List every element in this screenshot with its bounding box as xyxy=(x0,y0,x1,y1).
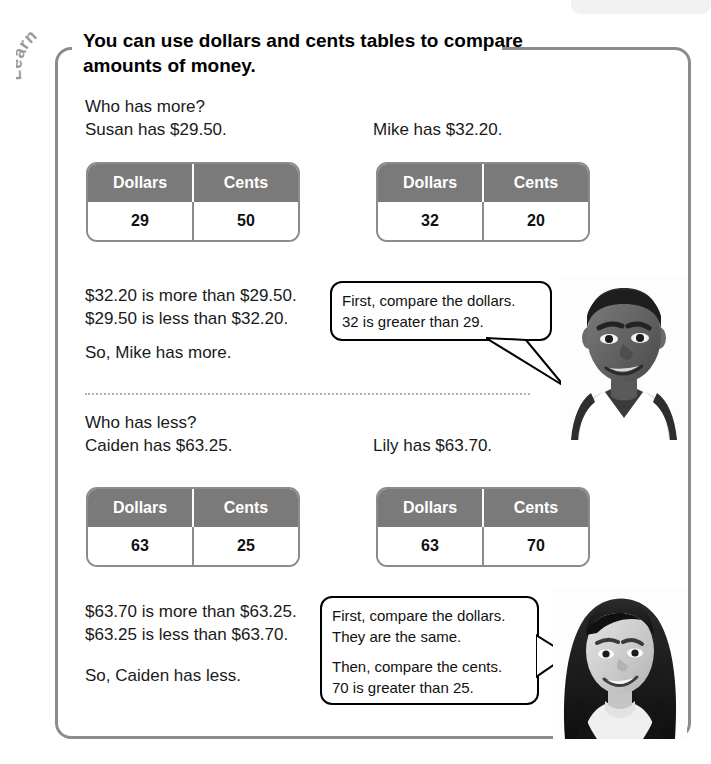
example2-comparison-line2: $63.25 is less than $63.70. xyxy=(85,623,345,646)
section-divider xyxy=(85,393,530,396)
example1-conclusion: So, Mike has more. xyxy=(85,341,345,364)
example2-table-caiden: Dollars Cents 63 25 xyxy=(86,487,300,567)
example2-conclusion: So, Caiden has less. xyxy=(85,664,345,687)
bubble-para2-line1: Then, compare the cents. xyxy=(332,658,502,675)
example1-right-statement: Mike has $32.20. xyxy=(373,118,633,141)
value-cents: 25 xyxy=(194,527,298,565)
example2-right-statement: Lily has $63.70. xyxy=(373,434,633,457)
example1-comparison-line2: $29.50 is less than $32.20. xyxy=(85,307,345,330)
table-header-row: Dollars Cents xyxy=(88,164,298,202)
table-header-row: Dollars Cents xyxy=(88,489,298,527)
header-dollars: Dollars xyxy=(88,164,194,202)
bubble-para1-line1: First, compare the dollars. xyxy=(332,607,505,624)
bubble-para2: Then, compare the cents. 70 is greater t… xyxy=(332,656,527,698)
value-dollars: 29 xyxy=(88,202,194,240)
value-dollars: 63 xyxy=(88,527,194,565)
header-cents: Cents xyxy=(484,489,588,527)
header-dollars: Dollars xyxy=(88,489,194,527)
table-value-row: 63 70 xyxy=(378,527,588,565)
header-dollars: Dollars xyxy=(378,489,484,527)
value-cents: 20 xyxy=(484,202,588,240)
example2-table-lily: Dollars Cents 63 70 xyxy=(376,487,590,567)
value-dollars: 63 xyxy=(378,527,484,565)
example1-left-statement: Susan has $29.50. xyxy=(85,118,345,141)
bubble-line-1: First, compare the dollars. xyxy=(342,290,540,311)
header-cents: Cents xyxy=(194,164,298,202)
table-header-row: Dollars Cents xyxy=(378,489,588,527)
value-cents: 50 xyxy=(194,202,298,240)
value-dollars: 32 xyxy=(378,202,484,240)
table-value-row: 32 20 xyxy=(378,202,588,240)
table-header-row: Dollars Cents xyxy=(378,164,588,202)
table-value-row: 63 25 xyxy=(88,527,298,565)
example2-question: Who has less? xyxy=(85,411,345,434)
example2-left-statement: Caiden has $63.25. xyxy=(85,434,345,457)
example1-table-susan: Dollars Cents 29 50 xyxy=(86,162,300,242)
table-value-row: 29 50 xyxy=(88,202,298,240)
header-cents: Cents xyxy=(484,164,588,202)
bubble-para1: First, compare the dollars. They are the… xyxy=(332,605,527,647)
example2-comparison-line1: $63.70 is more than $63.25. xyxy=(85,600,345,623)
example1-table-mike: Dollars Cents 32 20 xyxy=(376,162,590,242)
bubble-para2-line2: 70 is greater than 25. xyxy=(332,679,474,696)
example1-student-photo xyxy=(561,276,687,440)
header-dollars: Dollars xyxy=(378,164,484,202)
example1-speech-bubble: First, compare the dollars. 32 is greate… xyxy=(330,281,552,341)
header-cents: Cents xyxy=(194,489,298,527)
example2-speech-bubble: First, compare the dollars. They are the… xyxy=(320,596,539,705)
bubble-line-2: 32 is greater than 29. xyxy=(342,311,540,332)
example1-question: Who has more? xyxy=(85,95,345,118)
example2-student-photo xyxy=(553,589,687,739)
learn-tab-label: Learn xyxy=(16,26,41,81)
example1-comparison-line1: $32.20 is more than $29.50. xyxy=(85,284,345,307)
bubble-para1-line2: They are the same. xyxy=(332,628,461,645)
value-cents: 70 xyxy=(484,527,588,565)
top-right-chip xyxy=(571,0,711,14)
page-title: You can use dollars and cents tables to … xyxy=(83,28,523,78)
